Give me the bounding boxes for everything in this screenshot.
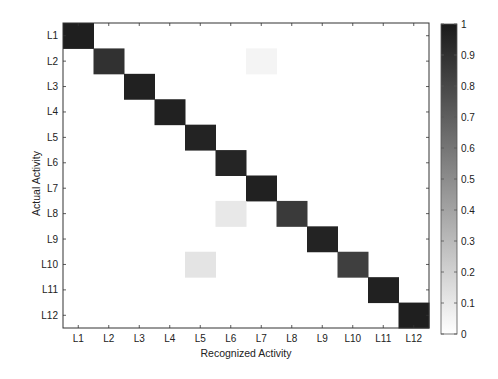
heatmap-cell [277, 201, 308, 227]
heatmap-cell [185, 252, 216, 278]
heatmap-cell [368, 277, 399, 303]
heatmap-cells [63, 23, 430, 329]
heatmap-cell [124, 74, 155, 100]
colorbar-tick-label: 0.7 [461, 112, 475, 123]
y-tick-label: L9 [47, 234, 59, 245]
x-tick-label: L8 [286, 333, 298, 344]
colorbar-tick-label: 1 [461, 19, 467, 30]
confusion-matrix-chart: L1L2L3L4L5L6L7L8L9L10L11L12 L1L2L3L4L5L6… [0, 0, 498, 379]
y-tick-label: L11 [42, 284, 58, 295]
heatmap-cell [338, 252, 369, 278]
y-tick-label: L6 [47, 157, 59, 168]
heatmap-cell [185, 125, 216, 151]
x-tick-label: L1 [73, 333, 85, 344]
x-tick-label: L10 [344, 333, 361, 344]
colorbar-tick-label: 0.5 [461, 174, 475, 185]
x-tick-label: L9 [317, 333, 329, 344]
heatmap-cell [216, 201, 247, 227]
colorbar-tick-label: 0.4 [461, 205, 475, 216]
colorbar-tick-label: 0.3 [461, 236, 475, 247]
heatmap-cell [155, 99, 186, 125]
y-tick-label: L12 [41, 310, 58, 321]
y-tick-label: L8 [47, 208, 59, 219]
colorbar-tick-label: 0.6 [461, 143, 475, 154]
colorbar-tick-label: 0.1 [461, 298, 475, 309]
x-tick-label: L7 [256, 333, 268, 344]
x-tick-label: L6 [225, 333, 237, 344]
x-tick-label: L4 [164, 333, 176, 344]
y-tick-label: L3 [47, 81, 59, 92]
colorbar-tick-label: 0 [461, 329, 467, 340]
x-tick-label: L12 [405, 333, 422, 344]
x-tick-label: L11 [375, 333, 391, 344]
y-tick-label: L1 [47, 30, 59, 41]
heatmap-cell [399, 303, 430, 329]
y-axis-title: Actual Activity [30, 150, 42, 216]
y-tick-label: L10 [41, 259, 58, 270]
x-axis-title: Recognized Activity [200, 347, 292, 359]
y-tick-label: L2 [47, 56, 59, 67]
colorbar-tick-label: 0.8 [461, 81, 475, 92]
heatmap-cell [246, 48, 277, 74]
x-tick-label: L3 [134, 333, 146, 344]
heatmap-cell [307, 226, 338, 252]
colorbar-tick-label: 0.2 [461, 267, 475, 278]
y-tick-label: L7 [47, 183, 59, 194]
x-tick-label: L5 [195, 333, 207, 344]
y-tick-label: L5 [47, 132, 59, 143]
heatmap-cell [94, 48, 125, 74]
colorbar-tick-label: 0.9 [461, 50, 475, 61]
heatmap-cell [246, 176, 277, 202]
x-tick-label: L2 [103, 333, 115, 344]
y-tick-label: L4 [47, 106, 59, 117]
heatmap-cell [216, 150, 247, 176]
heatmap-cell [63, 23, 94, 49]
